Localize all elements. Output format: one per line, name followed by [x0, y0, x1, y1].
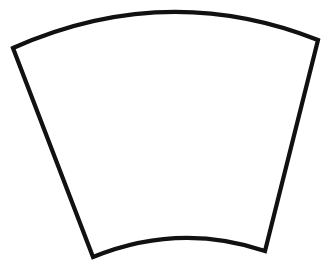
annulus-sector-figure [0, 0, 329, 266]
drawing-canvas [0, 0, 329, 266]
